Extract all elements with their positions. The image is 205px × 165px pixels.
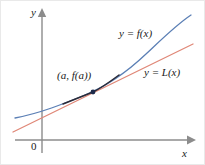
tangent-point-marker	[91, 90, 96, 95]
tangent-line-curve	[13, 44, 193, 132]
tangent-point-label: (a, f(a))	[57, 70, 91, 81]
y-axis-arrow-icon	[38, 8, 46, 17]
function-curve-label: y = f(x)	[119, 28, 152, 39]
origin-label: 0	[31, 141, 37, 152]
x-axis-label: x	[182, 148, 187, 159]
linear-approximation-figure: y = f(x) y = L(x) (a, f(a)) x y 0	[0, 0, 205, 165]
y-axis-label: y	[31, 7, 36, 18]
tangent-line-label: y = L(x)	[144, 67, 180, 78]
x-axis-arrow-icon	[187, 136, 196, 145]
